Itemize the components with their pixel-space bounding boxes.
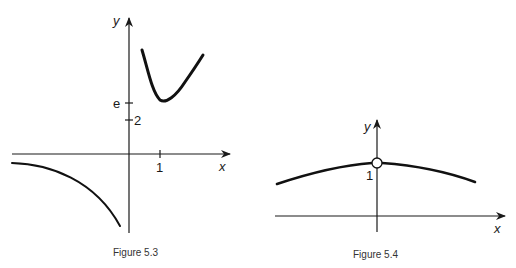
x-tick-label-1: 1 bbox=[156, 160, 163, 175]
x-axis-label: x bbox=[218, 159, 226, 174]
lower-branch-curve bbox=[12, 163, 120, 226]
x-axis-label: x bbox=[493, 221, 501, 236]
y-tick-label-2: 2 bbox=[134, 113, 141, 128]
figure-caption: Figure 5.3 bbox=[113, 247, 158, 258]
figures-canvas: y x 1 e 2 Figure 5.3 y x 1 Figure 5.4 bbox=[0, 0, 516, 268]
upper-branch-curve bbox=[142, 50, 203, 101]
y-axis-label: y bbox=[363, 119, 372, 134]
figure-5-3: y x 1 e 2 Figure 5.3 bbox=[12, 13, 230, 258]
y-tick-label-e: e bbox=[113, 96, 120, 111]
open-circle-marker bbox=[372, 158, 382, 168]
figure-caption: Figure 5.4 bbox=[353, 249, 398, 260]
figure-5-4: y x 1 Figure 5.4 bbox=[275, 119, 505, 260]
y-axis-label: y bbox=[112, 13, 121, 28]
y-tick-label-1: 1 bbox=[366, 168, 373, 183]
